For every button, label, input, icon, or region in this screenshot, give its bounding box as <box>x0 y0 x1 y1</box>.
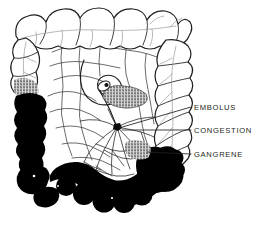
vessel-lumen-core <box>104 83 108 87</box>
gangrene-transition-stipple <box>125 140 151 159</box>
colon-ischemia-figure: EMBOLUS CONGESTION GANGRENE <box>0 0 265 225</box>
descending-colon-gangrenous <box>14 93 59 207</box>
embolus-point <box>113 123 122 131</box>
label-gangrene: GANGRENE <box>194 150 243 159</box>
label-congestion: CONGESTION <box>194 126 252 135</box>
label-embolus: EMBOLUS <box>194 103 236 112</box>
figure-canvas: EMBOLUS CONGESTION GANGRENE <box>0 0 265 225</box>
